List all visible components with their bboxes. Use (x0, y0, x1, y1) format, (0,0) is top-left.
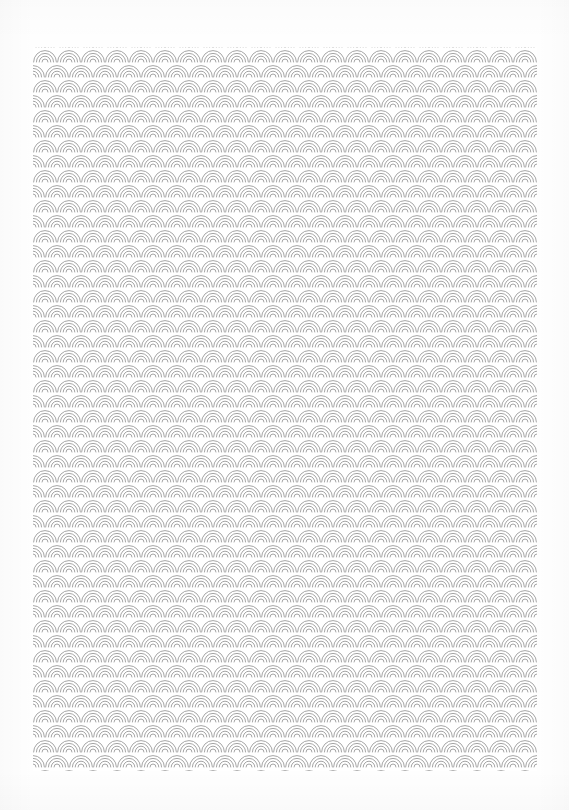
seigaiha-pattern-block (33, 47, 537, 771)
pattern-sheet-page: Seigaiha concentric wave scallop pattern (0, 0, 569, 810)
